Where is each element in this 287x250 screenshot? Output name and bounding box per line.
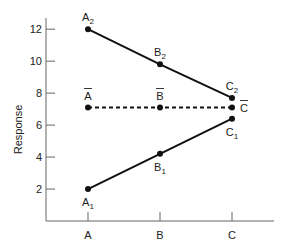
y-tick-label: 2 [36,183,42,195]
point-label: A [84,90,92,102]
x-tick-label: B [156,229,163,241]
point-label: B [156,90,163,102]
y-tick-label: 6 [36,119,42,131]
y-tick-label: 12 [30,23,42,35]
point-label: A1 [82,196,94,211]
data-point [85,105,91,111]
point-label: C2 [226,80,239,95]
point-label: B2 [154,46,166,61]
data-point [85,26,91,32]
data-point [157,61,163,67]
data-point [157,151,163,157]
data-point [229,116,235,122]
y-ticks: 24681012 [30,23,55,195]
point-label: B1 [154,161,166,176]
series-level-1: A1B1C1 [82,116,239,211]
data-point [157,105,163,111]
data-point [85,186,91,192]
data-point [229,95,235,101]
y-tick-label: 4 [36,151,42,163]
series-group: A2B2C2ABCA1B1C1 [82,11,248,211]
series-level-2: A2B2C2 [82,11,239,101]
chart: 24681012 ABC Response A2B2C2ABCA1B1C1 [0,0,287,250]
y-tick-label: 10 [30,55,42,67]
y-axis-title: Response [12,105,24,155]
x-tick-label: C [228,229,236,241]
y-tick-label: 8 [36,87,42,99]
point-label: A2 [82,11,94,26]
data-point [229,105,235,111]
x-tick-label: A [84,229,92,241]
series-mean: ABC [84,89,248,114]
point-label: C [240,102,248,114]
point-label: C1 [226,126,239,141]
x-ticks: ABC [84,212,236,241]
